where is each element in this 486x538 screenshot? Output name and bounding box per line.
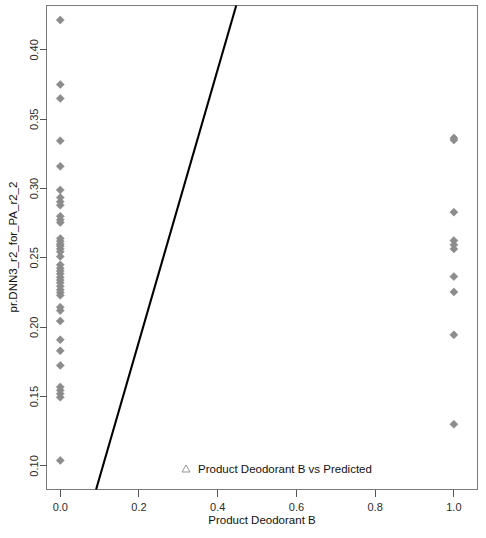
data-point xyxy=(56,137,64,145)
y-tick-label: 0.10 xyxy=(28,455,40,476)
y-tick-label: 0.30 xyxy=(28,178,40,199)
y-axis-title: pr.DNN3_r2_for_PA_r2_2 xyxy=(7,182,19,313)
data-point xyxy=(450,331,458,339)
x-tick-label: 0.6 xyxy=(289,501,304,513)
plot-frame xyxy=(47,6,478,490)
data-point xyxy=(450,273,458,281)
data-point xyxy=(56,336,64,344)
data-point xyxy=(450,288,458,296)
y-tick-group: 0.100.150.200.250.300.350.40 xyxy=(28,39,46,476)
chart-canvas: 0.100.150.200.250.300.350.40 0.00.20.40.… xyxy=(0,0,486,538)
data-point xyxy=(56,347,64,355)
x-axis-title: Product Deodorant B xyxy=(208,514,316,526)
legend-label: Product Deodorant B vs Predicted xyxy=(198,463,372,475)
y-tick-label: 0.20 xyxy=(28,317,40,338)
x-tick-label: 1.0 xyxy=(446,501,461,513)
y-tick-label: 0.40 xyxy=(28,39,40,60)
data-point xyxy=(56,81,64,89)
x-axis: 0.00.20.40.60.81.0 xyxy=(47,490,478,513)
y-tick-label: 0.15 xyxy=(28,386,40,407)
data-point xyxy=(56,253,64,261)
y-axis: 0.100.150.200.250.300.350.40 xyxy=(28,6,46,490)
x-tick-group: 0.00.20.40.60.81.0 xyxy=(53,490,462,513)
legend: Product Deodorant B vs Predicted xyxy=(182,463,372,475)
data-point xyxy=(56,94,64,102)
data-point xyxy=(56,361,64,369)
data-point xyxy=(56,317,64,325)
data-point xyxy=(56,456,64,464)
x-tick-label: 0.4 xyxy=(210,501,225,513)
legend-marker-icon xyxy=(182,465,190,472)
data-point xyxy=(56,186,64,194)
data-point xyxy=(450,420,458,428)
data-point xyxy=(56,16,64,24)
y-tick-label: 0.25 xyxy=(28,247,40,268)
x-tick-label: 0.8 xyxy=(368,501,383,513)
regression-line xyxy=(96,6,236,490)
scatter-plot-figure: 0.100.150.200.250.300.350.40 0.00.20.40.… xyxy=(0,0,486,538)
x-tick-label: 0.2 xyxy=(131,501,146,513)
y-tick-label: 0.35 xyxy=(28,109,40,130)
x-tick-label: 0.0 xyxy=(53,501,68,513)
data-point xyxy=(56,162,64,170)
regression-fit-line xyxy=(96,6,236,490)
data-point xyxy=(450,208,458,216)
data-points-layer xyxy=(56,16,458,464)
